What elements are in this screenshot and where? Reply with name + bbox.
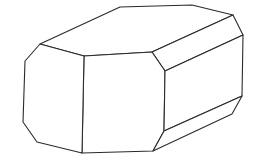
front-face [82,52,165,153]
figure-container [0,0,258,159]
left-face [23,44,84,153]
crystal-polyhedron-drawing [0,0,258,159]
